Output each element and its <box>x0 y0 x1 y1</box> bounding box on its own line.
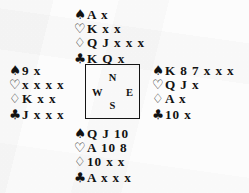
heart-icon: ♡ <box>74 22 87 37</box>
spade-icon: ♠ <box>152 63 165 78</box>
north-hearts-cards: K x x <box>87 22 122 37</box>
east-hearts-row: ♡ Q J x <box>152 78 235 93</box>
compass-label-west: W <box>92 88 103 99</box>
west-clubs-row: ♣ J x x x <box>9 107 65 122</box>
north-diamonds-row: ♢ Q J x x x <box>74 36 145 51</box>
east-hearts-cards: Q J x <box>165 78 200 93</box>
west-diamonds-cards: K x x <box>22 92 57 107</box>
club-icon: ♣ <box>152 107 165 122</box>
south-diamonds-cards: 10 x x <box>87 155 125 170</box>
north-hearts-row: ♡ K x x <box>74 22 145 37</box>
compass-label-north: N <box>86 73 139 84</box>
heart-icon: ♡ <box>152 78 165 93</box>
hand-north: ♠ A x ♡ K x x ♢ Q J x x x ♣ K Q x <box>74 7 145 65</box>
compass-label-south: S <box>86 101 139 112</box>
diamond-icon: ♢ <box>9 92 22 107</box>
north-diamonds-cards: Q J x x x <box>87 36 145 51</box>
spade-icon: ♠ <box>74 7 87 22</box>
east-clubs-row: ♣ 10 x <box>152 107 235 122</box>
compass-label-east: E <box>126 88 133 99</box>
diamond-icon: ♢ <box>74 36 87 51</box>
diamond-icon: ♢ <box>74 155 87 170</box>
hand-east: ♠ K 8 7 x x x ♡ Q J x ♢ A x ♣ 10 x <box>152 63 235 121</box>
heart-icon: ♡ <box>74 141 87 156</box>
south-diamonds-row: ♢ 10 x x <box>74 155 132 170</box>
west-diamonds-row: ♢ K x x <box>9 92 65 107</box>
north-spades-row: ♠ A x <box>74 7 145 22</box>
compass-box: N W E S <box>85 64 140 119</box>
south-clubs-row: ♣ A x x x <box>74 170 132 185</box>
east-spades-row: ♠ K 8 7 x x x <box>152 63 235 78</box>
south-hearts-cards: A 10 8 <box>87 141 128 156</box>
south-spades-row: ♠ Q J 10 <box>74 126 132 141</box>
west-hearts-cards: x x x x <box>22 78 65 93</box>
east-diamonds-row: ♢ A x <box>152 92 235 107</box>
spade-icon: ♠ <box>9 63 22 78</box>
heart-icon: ♡ <box>9 78 22 93</box>
east-clubs-cards: 10 x <box>165 108 192 123</box>
south-clubs-cards: A x x x <box>87 171 132 186</box>
west-spades-row: ♠ 9 x <box>9 63 65 78</box>
west-hearts-row: ♡ x x x x <box>9 78 65 93</box>
diamond-icon: ♢ <box>152 92 165 107</box>
spade-icon: ♠ <box>74 126 87 141</box>
south-hearts-row: ♡ A 10 8 <box>74 141 132 156</box>
club-icon: ♣ <box>74 170 87 185</box>
hand-south: ♠ Q J 10 ♡ A 10 8 ♢ 10 x x ♣ A x x x <box>74 126 132 184</box>
club-icon: ♣ <box>9 107 22 122</box>
east-diamonds-cards: A x <box>165 92 186 107</box>
west-clubs-cards: J x x x <box>22 108 65 123</box>
bridge-hand-diagram: ♠ A x ♡ K x x ♢ Q J x x x ♣ K Q x ♠ 9 x … <box>0 0 249 193</box>
hand-west: ♠ 9 x ♡ x x x x ♢ K x x ♣ J x x x <box>9 63 65 121</box>
